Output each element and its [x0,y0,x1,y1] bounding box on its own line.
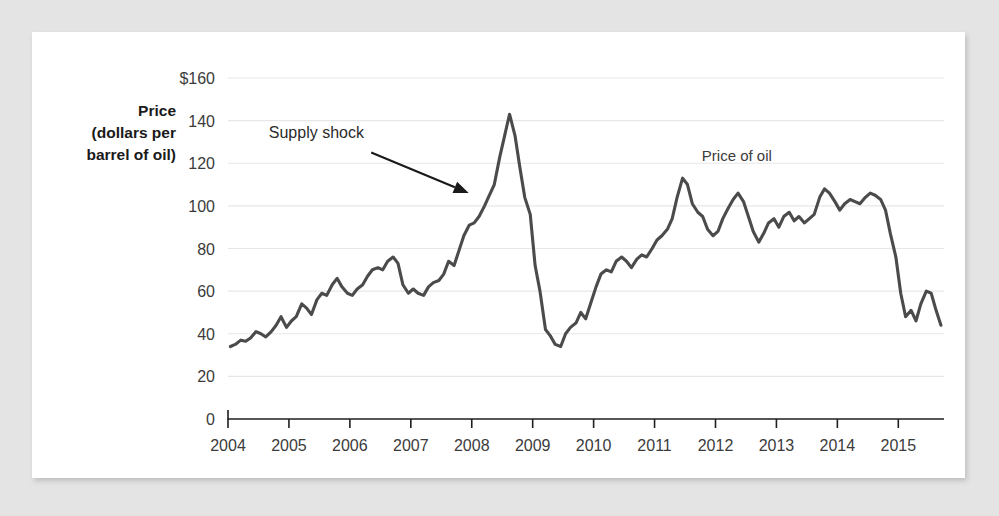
y-tick-label: 0 [206,411,215,428]
x-tick-label: 2012 [698,437,734,454]
x-tick-label: 2011 [637,437,672,454]
x-tick-label: 2013 [759,437,795,454]
oil-price-chart: $160140120100806040200 20042005200620072… [32,32,965,478]
price-of-oil-line [230,114,941,346]
x-tick-label: 2014 [820,437,856,454]
y-axis-tick-labels: $160140120100806040200 [179,70,215,428]
x-tick-label: 2008 [454,437,490,454]
y-tick-label: 20 [197,368,215,385]
x-axis-line [228,410,944,419]
x-tick-label: 2007 [393,437,429,454]
x-tick-label: 2004 [210,437,246,454]
annotation-supply-shock-label: Supply shock [269,124,365,141]
annotation-supply-shock-arrowhead [453,182,469,193]
y-tick-label: 80 [197,241,215,258]
x-axis-tick-labels: 2004200520062007200820092010201120122013… [210,437,916,454]
y-tick-label: 40 [197,326,215,343]
x-tick-label: 2010 [576,437,612,454]
figure-card: $160140120100806040200 20042005200620072… [32,32,965,478]
y-tick-label: $160 [179,70,215,87]
x-tick-label: 2009 [515,437,551,454]
y-axis-title: Price(dollars perbarrel of oil) [86,102,176,163]
y-axis-title-line: barrel of oil) [86,146,176,163]
x-tick-label: 2005 [271,437,307,454]
y-tick-label: 60 [197,283,215,300]
series-label-price-of-oil: Price of oil [702,147,772,164]
y-axis-title-line: Price [138,102,176,119]
x-tick-label: 2006 [332,437,368,454]
x-tick-label: 2015 [881,437,917,454]
annotation-supply-shock-arrow [371,153,455,188]
x-axis-tick-marks [228,419,898,428]
y-axis-title-line: (dollars per [92,124,176,141]
y-tick-label: 140 [188,113,215,130]
y-tick-label: 120 [188,155,215,172]
y-tick-label: 100 [188,198,215,215]
